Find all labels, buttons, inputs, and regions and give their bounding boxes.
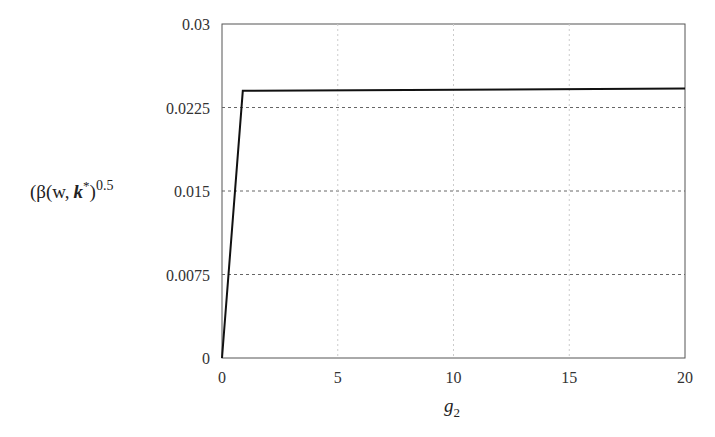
x-tick-label: 0 <box>218 369 226 386</box>
x-tick-label: 5 <box>334 369 342 386</box>
x-axis-label: g2 <box>444 395 460 420</box>
y-tick-label: 0 <box>202 350 210 367</box>
chart: 00.00750.0150.02250.0305101520 (β(w,k*)0… <box>0 0 715 437</box>
y-tick-label: 0.03 <box>182 16 210 33</box>
x-tick-label: 15 <box>561 369 577 386</box>
x-tick-label: 10 <box>446 369 462 386</box>
y-tick-label: 0.0075 <box>166 267 210 284</box>
y-axis-label: (β(w,k*)0.5 <box>30 178 113 203</box>
y-tick-label: 0.015 <box>174 183 210 200</box>
y-tick-label: 0.0225 <box>166 100 210 117</box>
x-tick-label: 20 <box>677 369 693 386</box>
